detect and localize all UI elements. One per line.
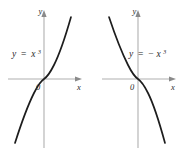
x-axis-label: x <box>76 82 81 92</box>
equation-operator: = <box>138 49 143 59</box>
equation-exponent: 3 <box>37 49 41 55</box>
curve-y-equals-x-cubed <box>15 17 71 143</box>
graph-panel-left: y x 0 y = x 3 <box>0 0 93 155</box>
x-axis-label: x <box>170 82 175 92</box>
origin-label: 0 <box>130 82 135 92</box>
equation-exponent: 3 <box>162 49 166 55</box>
y-axis-label: y <box>38 6 43 16</box>
equation-label-right: y = − x 3 <box>128 49 166 59</box>
equation-lhs: y <box>11 49 17 59</box>
equation-label-left: y = x 3 <box>11 49 41 59</box>
x-axis-arrowhead <box>75 76 82 81</box>
equation-base: x <box>30 49 36 59</box>
equation-minus-sign: − <box>148 49 153 59</box>
equation-operator: = <box>21 49 26 59</box>
cubic-functions-figure: y x 0 y = x 3 y <box>0 0 187 155</box>
graph-panel-right: y x 0 y = − x 3 <box>94 0 187 155</box>
equation-base: x <box>156 49 162 59</box>
equation-lhs: y <box>128 49 134 59</box>
x-axis-arrowhead <box>169 76 176 81</box>
y-axis-label: y <box>132 6 137 16</box>
curve-y-equals-negative-x-cubed <box>109 17 165 143</box>
